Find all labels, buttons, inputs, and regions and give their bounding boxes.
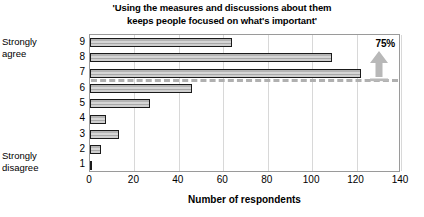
bar-row: [90, 50, 399, 65]
bar-row: [90, 81, 399, 96]
bar: [90, 69, 361, 78]
x-axis-tick-label: 100: [291, 174, 331, 186]
bar-row: [90, 158, 399, 173]
scale-anchor-high-line-2: agree: [2, 48, 26, 59]
bar: [90, 145, 101, 154]
gridline: [401, 35, 402, 171]
x-axis-tick-label: 140: [380, 174, 420, 186]
y-axis-tick-label: 5: [67, 98, 85, 108]
bar: [90, 130, 119, 139]
plot-area: 75%: [89, 34, 400, 172]
scale-anchor-low-line-2: disagree: [2, 162, 38, 173]
bar-row: [90, 96, 399, 111]
bar: [90, 161, 92, 170]
x-axis-title: Number of respondents: [89, 194, 400, 205]
y-axis-tick-label: 6: [67, 83, 85, 93]
scale-anchor-high: Strongly agree: [2, 36, 64, 59]
y-axis-tick-label: 9: [67, 37, 85, 47]
bar: [90, 38, 232, 47]
x-axis-tick-label: 60: [202, 174, 242, 186]
x-axis-tick-label: 80: [247, 174, 287, 186]
bar-row: [90, 112, 399, 127]
y-axis-tick-labels: 987654321: [62, 34, 85, 172]
y-axis-tick-label: 4: [67, 113, 85, 123]
bar: [90, 84, 192, 93]
x-axis-tick-labels: 020406080100120140: [89, 174, 400, 188]
x-axis-tick-label: 0: [69, 174, 109, 186]
y-axis-tick-label: 8: [67, 52, 85, 62]
bar-row: [90, 127, 399, 142]
scale-anchor-low: Strongly disagree: [2, 150, 64, 173]
percent-callout-label: 75%: [376, 38, 395, 49]
scale-anchor-low-line-1: Strongly: [2, 150, 37, 161]
bar-chart: 'Using the measures and discussions abou…: [0, 0, 424, 217]
x-axis-tick-label: 40: [158, 174, 198, 186]
bar-row: [90, 142, 399, 157]
y-axis-tick-label: 1: [67, 159, 85, 169]
y-axis-tick-label: 2: [67, 144, 85, 154]
chart-title: 'Using the measures and discussions abou…: [62, 2, 382, 27]
y-axis-tick-label: 3: [67, 129, 85, 139]
bar: [90, 53, 332, 62]
x-axis-tick-label: 20: [113, 174, 153, 186]
bar-row: [90, 35, 399, 50]
chart-title-line-2: keeps people focused on what's important…: [62, 15, 382, 28]
y-axis-tick-label: 7: [67, 67, 85, 77]
x-axis-tick-label: 120: [336, 174, 376, 186]
scale-anchor-high-line-1: Strongly: [2, 36, 37, 47]
up-arrow-icon: [366, 50, 392, 84]
threshold-dashed-line: [91, 79, 398, 82]
bar: [90, 99, 150, 108]
bar: [90, 115, 106, 124]
chart-title-line-1: 'Using the measures and discussions abou…: [62, 2, 382, 15]
